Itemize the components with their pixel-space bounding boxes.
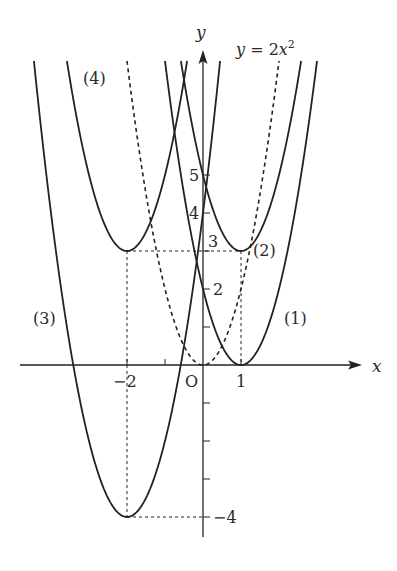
x-tick-label: 1 (236, 372, 246, 391)
guide-lines (127, 251, 241, 517)
curve-label-2: (2) (253, 241, 276, 260)
y-tick-label: −4 (213, 508, 237, 527)
curve-label-3: (3) (33, 309, 56, 328)
axis-ticks: −215432−4 (113, 166, 246, 527)
parabola-curves (34, 61, 317, 517)
x-tick-label: −2 (113, 372, 137, 391)
parabola-graph: −215432−4 x y O y = 2x2 (1) (2) (3) (4) (0, 0, 397, 571)
y-tick-label: 2 (213, 280, 223, 299)
curve-label-4: (4) (83, 69, 106, 88)
x-axis-label: x (372, 356, 382, 376)
y-axis-label: y (195, 22, 206, 42)
y-tick-label: 5 (189, 166, 199, 185)
y-tick-label: 4 (189, 204, 199, 223)
y-tick-label: 3 (208, 232, 218, 251)
labels: x y O y = 2x2 (1) (2) (3) (4) (33, 22, 382, 391)
origin-label: O (185, 372, 198, 391)
base-curve-label: y = 2x2 (235, 38, 295, 59)
curve-label-1: (1) (284, 309, 307, 328)
